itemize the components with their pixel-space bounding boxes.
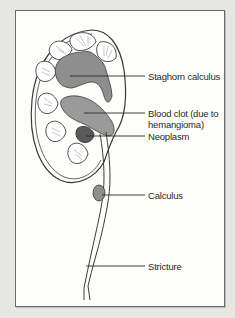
label-blood-clot-line1: Blood clot (due to — [148, 108, 218, 119]
kidney-ureter-illustration — [0, 0, 235, 318]
diagram-panel: Staghorn calculus Blood clot (due to hem… — [15, 10, 225, 307]
label-blood-clot-line2: hemangioma) — [148, 119, 204, 130]
label-neoplasm: Neoplasm — [148, 131, 189, 142]
label-staghorn-calculus: Staghorn calculus — [148, 71, 220, 82]
label-stricture: Stricture — [148, 261, 182, 272]
label-calculus: Calculus — [148, 190, 183, 201]
